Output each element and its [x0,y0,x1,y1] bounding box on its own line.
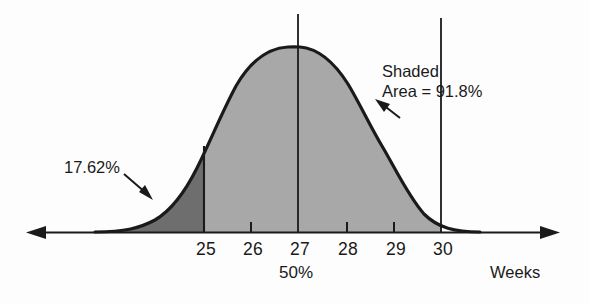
left-tail-callout-arrowhead [139,185,153,200]
x-tick-label-28: 28 [338,240,358,260]
x-tick-label-25: 25 [196,240,216,260]
x-tick-label-27: 27 [290,240,310,260]
x-axis-left-arrowhead [26,226,46,239]
x-tick-label-29: 29 [386,240,406,260]
region-dark-left-tail [90,40,204,233]
normal-distribution-chart: 25 26 27 28 29 30 50% Weeks 17.62% Shade… [0,0,589,304]
left-tail-percent-label: 17.62% [64,158,120,176]
median-percent-label: 50% [279,263,313,282]
shaded-area-callout-line1: Shaded [382,62,439,80]
x-tick-label-30: 30 [433,240,453,260]
x-axis-title: Weeks [490,263,540,281]
x-tick-label-26: 26 [243,240,263,260]
shaded-area-callout-arrowhead [375,99,390,112]
shaded-area-callout-line2: Area = 91.8% [382,82,482,100]
x-axis-right-arrowhead [540,226,560,239]
